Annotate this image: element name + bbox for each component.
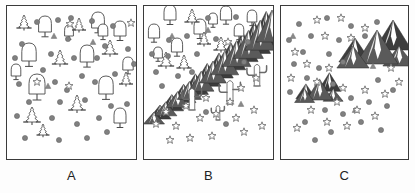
- circle-symbol: [55, 17, 60, 22]
- circle-symbol: [112, 71, 117, 76]
- circle-symbol: [300, 49, 305, 54]
- circle-symbol: [287, 89, 292, 94]
- circle-symbol: [348, 95, 353, 100]
- circle-symbol: [245, 39, 250, 44]
- circle-symbol: [308, 33, 313, 38]
- panel-c-canvas: [281, 6, 409, 160]
- broadleaf-canopy: [98, 24, 108, 36]
- star-symbol: [323, 118, 331, 126]
- star-symbol: [343, 122, 351, 130]
- circle-symbol: [340, 59, 345, 64]
- star-symbol: [287, 74, 295, 82]
- broadleaf-canopy: [148, 24, 159, 38]
- circle-symbol: [304, 75, 309, 80]
- conifer-tree-symbol: [72, 18, 86, 32]
- broadleaf-tree-symbol: [114, 108, 126, 128]
- broadleaf-tree-symbol: [11, 64, 21, 80]
- panel-c-wrapper: C: [280, 5, 409, 160]
- circle-symbol: [149, 51, 154, 56]
- circle-symbol: [131, 61, 136, 66]
- broadleaf-tree-symbol: [154, 47, 163, 61]
- circle-symbol: [324, 15, 329, 20]
- broadleaf-tree-symbol: [164, 6, 176, 25]
- broadleaf-tree-symbol: [220, 6, 231, 24]
- circle-symbol: [22, 135, 27, 140]
- conifer-tree-symbol: [23, 107, 40, 125]
- circle-symbol: [184, 33, 189, 38]
- panel-a[interactable]: [6, 5, 137, 160]
- star-symbol: [361, 24, 369, 32]
- circle-symbol: [79, 73, 84, 78]
- circle-symbol: [286, 37, 291, 42]
- circle-symbol: [302, 119, 307, 124]
- circle-symbol: [390, 87, 395, 92]
- star-symbol: [237, 84, 245, 92]
- conifer-tree-symbol: [119, 72, 133, 86]
- circle-symbol: [233, 14, 238, 19]
- circle-symbol: [110, 23, 115, 28]
- conifer-tree-symbol: [52, 50, 68, 67]
- circle-symbol: [57, 99, 62, 104]
- conifer-canopy: [119, 72, 133, 84]
- circle-symbol: [125, 46, 130, 51]
- broadleaf-canopy: [247, 10, 257, 22]
- circle-symbol: [241, 59, 246, 64]
- circle-symbol: [40, 67, 45, 72]
- triangle-symbol: [51, 33, 57, 38]
- circle-symbol: [330, 81, 335, 86]
- broadleaf-canopy: [171, 38, 182, 52]
- conifer-canopy: [72, 18, 86, 30]
- mountain-cluster-symbol: [295, 73, 344, 103]
- circle-symbol: [322, 107, 327, 112]
- star-symbol: [202, 94, 210, 102]
- panel-a-canvas: [7, 6, 137, 160]
- star-symbol: [196, 114, 204, 122]
- panel-b-wrapper: B: [143, 5, 274, 160]
- broadleaf-tree-symbol: [171, 38, 182, 56]
- star-symbol: [291, 48, 299, 56]
- panel-b-canvas: [144, 6, 274, 160]
- broadleaf-tree-symbol: [98, 24, 108, 40]
- circle-symbol: [108, 103, 113, 108]
- broadleaf-tree-symbol: [22, 43, 36, 66]
- star-symbol: [381, 90, 389, 98]
- circle-symbol: [92, 79, 97, 84]
- panel-c[interactable]: [280, 5, 409, 160]
- circle-symbol: [358, 119, 363, 124]
- circle-symbol: [34, 19, 39, 24]
- conifer-tree-symbol: [68, 95, 85, 113]
- star-symbol: [232, 114, 240, 122]
- triangle-symbol: [90, 39, 96, 44]
- circle-symbol: [68, 15, 73, 20]
- circle-symbol: [74, 121, 79, 126]
- conifer-canopy: [52, 50, 68, 64]
- circle-symbol: [348, 23, 353, 28]
- cactus-trunk: [189, 88, 195, 110]
- broadleaf-tree-symbol: [209, 13, 218, 27]
- broadleaf-canopy: [114, 21, 126, 36]
- panel-b[interactable]: [143, 5, 274, 160]
- star-symbol: [240, 128, 248, 136]
- circle-symbol: [153, 69, 158, 74]
- cactus-arm-right: [260, 66, 267, 73]
- circle-symbol: [94, 55, 99, 60]
- broadleaf-canopy: [220, 6, 231, 20]
- star-symbol: [208, 132, 216, 140]
- circle-symbol: [96, 115, 101, 120]
- circle-symbol: [166, 37, 171, 42]
- triangle-symbol: [238, 101, 244, 106]
- star-symbol: [371, 112, 379, 120]
- circle-symbol: [336, 37, 341, 42]
- conifer-tree-symbol: [185, 9, 200, 25]
- broadleaf-tree-symbol: [148, 24, 159, 42]
- star-symbol: [325, 64, 333, 72]
- cactus-arm-right: [220, 107, 225, 111]
- circle-symbol: [189, 69, 194, 74]
- broadleaf-tree-symbol: [99, 76, 113, 99]
- circle-symbol: [82, 97, 87, 102]
- conifer-canopy: [68, 95, 85, 110]
- circle-symbol: [205, 15, 210, 20]
- circle-symbol: [89, 18, 94, 23]
- cactus-arm-left: [247, 68, 254, 75]
- broadleaf-canopy: [234, 24, 244, 36]
